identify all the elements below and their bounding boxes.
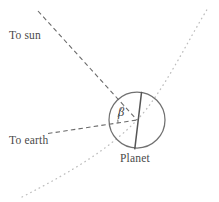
label-planet: Planet <box>120 152 150 164</box>
label-to-sun: To sun <box>9 29 41 41</box>
to-earth-ray <box>48 120 137 134</box>
planet-geometry-diagram: To sun To earth Planet β <box>0 0 219 202</box>
to-sun-ray <box>38 11 137 120</box>
label-beta-angle: β <box>118 106 124 118</box>
label-to-earth: To earth <box>9 134 48 146</box>
